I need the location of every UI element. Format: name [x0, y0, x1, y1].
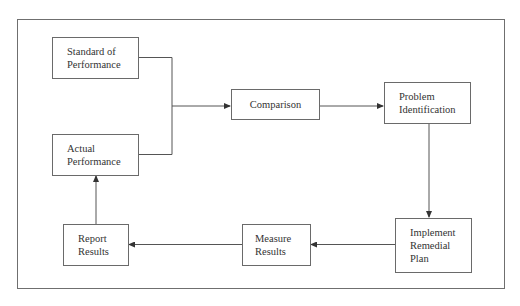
- edge-standard-merge: [138, 58, 172, 155]
- node-label: Report Results: [78, 232, 109, 258]
- node-label: Actual Performance: [67, 142, 121, 168]
- node-label: Problem Identification: [399, 90, 456, 116]
- node-problem-identification: Problem Identification: [384, 82, 471, 124]
- node-measure-results: Measure Results: [242, 224, 311, 266]
- node-actual-performance: Actual Performance: [52, 134, 139, 176]
- node-label: Comparison: [250, 98, 301, 111]
- node-label: Implement Remedial Plan: [410, 226, 456, 265]
- node-implement-remedial-plan: Implement Remedial Plan: [395, 218, 472, 273]
- node-label: Standard of Performance: [67, 45, 121, 71]
- node-standard-of-performance: Standard of Performance: [52, 37, 139, 79]
- node-report-results: Report Results: [63, 224, 129, 266]
- node-comparison: Comparison: [231, 89, 320, 120]
- node-label: Measure Results: [255, 232, 291, 258]
